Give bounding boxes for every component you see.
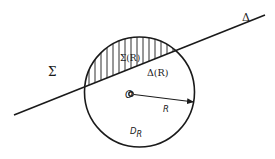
label-sigma-r: Σ(R)	[120, 53, 140, 63]
label-disk-subscript: R	[137, 130, 143, 139]
label-origin: O	[125, 89, 133, 100]
label-delta-r: Δ(R)	[147, 67, 168, 78]
label-radius: R	[163, 104, 169, 114]
radius-arrow	[134, 95, 194, 103]
label-disk: DR	[130, 126, 142, 139]
label-delta: Δ	[242, 11, 250, 24]
label-sigma: Σ	[48, 65, 56, 79]
diagram-canvas: Σ Δ Σ(R) Δ(R) O R DR	[0, 0, 275, 159]
